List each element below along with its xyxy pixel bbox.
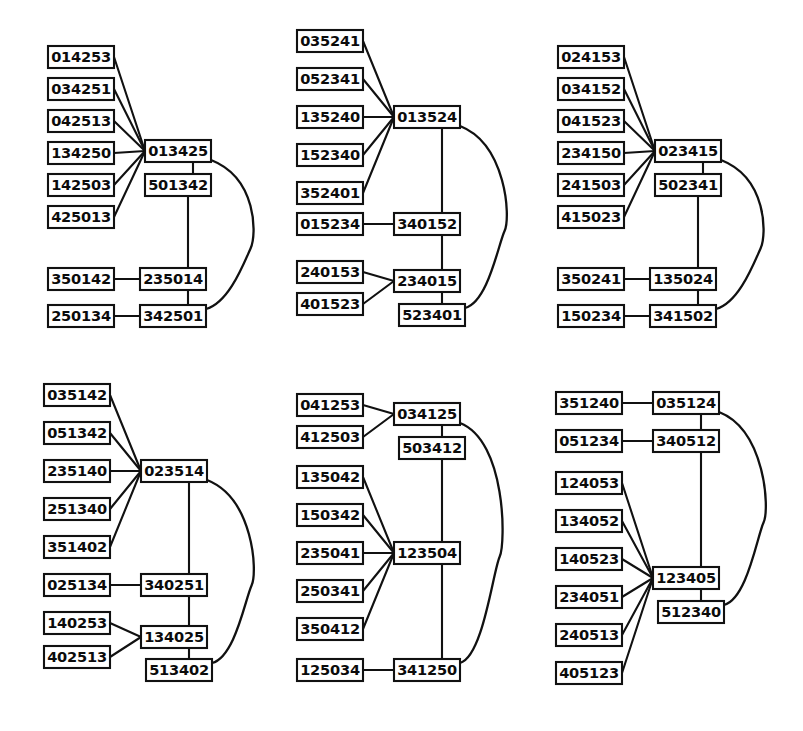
node-box (650, 305, 716, 327)
node-box (297, 659, 363, 681)
permutation-node[interactable]: 523401 (399, 304, 465, 326)
permutation-node[interactable]: 042513 (48, 110, 114, 132)
permutation-node[interactable]: 235041 (297, 542, 363, 564)
node-layer: 0241530341520415232341502415034150233502… (558, 46, 721, 327)
permutation-node[interactable]: 134250 (48, 142, 114, 164)
permutation-node[interactable]: 341250 (394, 659, 460, 681)
permutation-node[interactable]: 234015 (394, 270, 460, 292)
node-box (297, 213, 363, 235)
permutation-node[interactable]: 135240 (297, 106, 363, 128)
permutation-node[interactable]: 235014 (140, 268, 206, 290)
permutation-node[interactable]: 425013 (48, 206, 114, 228)
edge-p5n4-p5hub (363, 515, 394, 553)
permutation-node[interactable]: 412503 (297, 426, 363, 448)
hub-node[interactable]: 123405 (653, 567, 719, 589)
permutation-node[interactable]: 041253 (297, 394, 363, 416)
permutation-node[interactable]: 503412 (399, 437, 465, 459)
edge-p5n1-p5n9 (363, 405, 394, 414)
hub-node[interactable]: 013425 (145, 140, 211, 162)
node-box (558, 268, 624, 290)
hub-node[interactable]: 013524 (394, 106, 460, 128)
permutation-node[interactable]: 135024 (650, 268, 716, 290)
permutation-node[interactable]: 342501 (140, 305, 206, 327)
permutation-node[interactable]: 240153 (297, 261, 363, 283)
permutation-node[interactable]: 140253 (44, 612, 110, 634)
node-box (399, 304, 465, 326)
permutation-node[interactable]: 034125 (394, 403, 460, 425)
panel-bottom-left: 0351420513422351402513403514020251341402… (18, 368, 286, 731)
permutation-node[interactable]: 024153 (558, 46, 624, 68)
permutation-node[interactable]: 512340 (658, 601, 724, 623)
permutation-node[interactable]: 234150 (558, 142, 624, 164)
node-box (653, 567, 719, 589)
hub-node[interactable]: 123504 (394, 542, 460, 564)
node-box (48, 142, 114, 164)
permutation-node[interactable]: 401523 (297, 293, 363, 315)
permutation-node[interactable]: 240513 (556, 624, 622, 646)
permutation-node[interactable]: 350142 (48, 268, 114, 290)
permutation-node[interactable]: 150342 (297, 504, 363, 526)
permutation-node[interactable]: 501342 (145, 174, 211, 196)
node-box (399, 437, 465, 459)
permutation-node[interactable]: 034152 (558, 78, 624, 100)
permutation-node[interactable]: 134052 (556, 510, 622, 532)
permutation-node[interactable]: 025134 (44, 574, 110, 596)
node-box (297, 504, 363, 526)
permutation-node[interactable]: 135042 (297, 466, 363, 488)
permutation-node[interactable]: 035241 (297, 30, 363, 52)
permutation-node[interactable]: 513402 (146, 659, 212, 681)
permutation-node[interactable]: 015234 (297, 213, 363, 235)
edge-p4n1-p4hub (110, 395, 141, 471)
permutation-node[interactable]: 140523 (556, 548, 622, 570)
permutation-node[interactable]: 351240 (556, 392, 622, 414)
hub-node[interactable]: 023415 (655, 140, 721, 162)
permutation-node[interactable]: 142503 (48, 174, 114, 196)
permutation-node[interactable]: 134025 (141, 626, 207, 648)
node-box (297, 618, 363, 640)
permutation-node[interactable]: 035142 (44, 384, 110, 406)
permutation-node[interactable]: 405123 (556, 662, 622, 684)
permutation-node[interactable]: 250134 (48, 305, 114, 327)
permutation-node[interactable]: 235140 (44, 460, 110, 482)
permutation-node[interactable]: 035124 (653, 392, 719, 414)
permutation-node[interactable]: 051234 (556, 430, 622, 452)
node-layer: 0352410523411352401523403524010152342401… (297, 30, 465, 326)
permutation-node[interactable]: 351402 (44, 536, 110, 558)
permutation-node[interactable]: 402513 (44, 646, 110, 668)
permutation-node[interactable]: 502341 (655, 174, 721, 196)
permutation-node[interactable]: 350412 (297, 618, 363, 640)
edge-p5n6-p5hub (363, 553, 394, 591)
permutation-node[interactable]: 234051 (556, 586, 622, 608)
permutation-node[interactable]: 340512 (653, 430, 719, 452)
node-box (146, 659, 212, 681)
edge-p3n2-p3hub (624, 89, 655, 151)
permutation-node[interactable]: 125034 (297, 659, 363, 681)
node-box (556, 548, 622, 570)
permutation-node[interactable]: 250341 (297, 580, 363, 602)
permutation-node[interactable]: 124053 (556, 472, 622, 494)
panel-bottom-right: 3512400512341240531340521405232340512405… (530, 368, 798, 731)
permutation-node[interactable]: 251340 (44, 498, 110, 520)
node-box (48, 174, 114, 196)
edge-p5n2-p5n9 (363, 414, 394, 437)
permutation-node[interactable]: 352401 (297, 182, 363, 204)
permutation-node[interactable]: 041523 (558, 110, 624, 132)
permutation-node[interactable]: 415023 (558, 206, 624, 228)
permutation-node[interactable]: 150234 (558, 305, 624, 327)
permutation-node[interactable]: 152340 (297, 144, 363, 166)
permutation-node[interactable]: 241503 (558, 174, 624, 196)
permutation-node[interactable]: 350241 (558, 268, 624, 290)
permutation-node[interactable]: 014253 (48, 46, 114, 68)
hub-node[interactable]: 023514 (141, 460, 207, 482)
permutation-node[interactable]: 052341 (297, 68, 363, 90)
node-box (394, 542, 460, 564)
edge-p5n9-p5n11 (460, 423, 503, 663)
node-box (655, 140, 721, 162)
permutation-node[interactable]: 034251 (48, 78, 114, 100)
permutation-node[interactable]: 340251 (141, 574, 207, 596)
permutation-node[interactable]: 051342 (44, 422, 110, 444)
edge-p2n2-p2hub (363, 79, 394, 117)
permutation-node[interactable]: 340152 (394, 213, 460, 235)
node-box (394, 659, 460, 681)
permutation-node[interactable]: 341502 (650, 305, 716, 327)
